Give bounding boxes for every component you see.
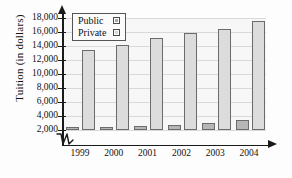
chart-legend: Public Private <box>72 13 126 41</box>
y-axis-tick-mark <box>58 116 66 117</box>
bar-public-2001 <box>134 126 147 130</box>
bar-private-2002 <box>184 33 197 130</box>
y-axis-tick-label: 14,000 <box>14 41 58 51</box>
bar-public-2002 <box>168 125 181 130</box>
bar-private-1999 <box>82 50 95 130</box>
y-axis-tick-mark <box>58 32 66 33</box>
legend-item-private: Private <box>78 27 120 39</box>
bar-public-2003 <box>202 123 215 130</box>
y-axis-tick-mark <box>58 130 66 131</box>
y-axis-tick-mark <box>58 102 66 103</box>
y-axis-tick-labels: 18,00016,00014,00012,00010,0008,0006,000… <box>10 0 58 178</box>
x-axis-arrow-icon <box>268 140 277 148</box>
y-axis-tick-label: 10,000 <box>14 69 58 79</box>
legend-item-public: Public <box>78 15 120 27</box>
tuition-bar-chart: Tuition (in dollars) 18,00016,00014,0001… <box>0 0 292 178</box>
y-axis-tick-label: 4,000 <box>14 111 58 121</box>
y-axis-tick-mark <box>58 46 66 47</box>
y-axis-tick-label: 16,000 <box>14 27 58 37</box>
y-axis-tick-mark <box>58 60 66 61</box>
y-axis-tick-mark <box>58 88 66 89</box>
gridline <box>63 130 266 131</box>
x-axis-line <box>62 145 270 147</box>
y-axis-tick-label: 2,000 <box>14 125 58 135</box>
bar-private-2004 <box>252 21 265 130</box>
y-axis-tick-mark <box>58 74 66 75</box>
bar-private-2003 <box>218 29 231 131</box>
bar-private-2000 <box>116 45 129 130</box>
legend-label-private: Private <box>78 27 106 39</box>
legend-label-public: Public <box>78 15 104 27</box>
bar-private-2001 <box>150 38 163 130</box>
gridline <box>63 46 266 47</box>
bar-public-1999 <box>66 127 79 130</box>
y-axis-tick-label: 12,000 <box>14 55 58 65</box>
x-axis-tick-label: 2004 <box>229 149 269 159</box>
axis-break-icon <box>55 131 77 147</box>
y-axis-tick-label: 6,000 <box>14 97 58 107</box>
y-axis-tick-label: 8,000 <box>14 83 58 93</box>
y-axis-arrow-icon <box>58 5 66 14</box>
y-axis-tick-label: 18,000 <box>14 13 58 23</box>
public-swatch-icon <box>113 17 120 24</box>
bar-public-2004 <box>236 120 249 130</box>
bar-public-2000 <box>100 127 113 131</box>
private-swatch-icon <box>113 29 120 36</box>
y-axis-tick-mark <box>58 18 66 19</box>
